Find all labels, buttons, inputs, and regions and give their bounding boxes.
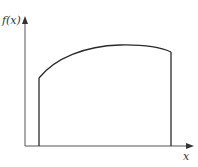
y-axis-label: f(x) <box>1 14 21 27</box>
function-graph: f(x) x <box>0 0 198 167</box>
function-curve <box>39 45 171 78</box>
x-axis-label: x <box>183 150 190 163</box>
